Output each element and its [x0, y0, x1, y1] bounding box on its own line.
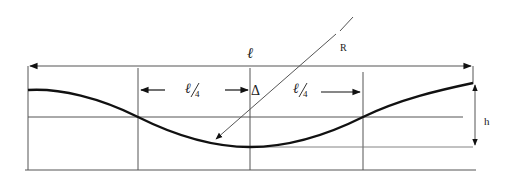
svg-text:ℓ: ℓ — [293, 80, 299, 96]
svg-text:ℓ: ℓ — [185, 80, 191, 96]
quarter-left-label: ℓ 4 — [185, 80, 200, 99]
radius-label: R — [340, 42, 347, 53]
delta-label: Δ — [251, 83, 260, 98]
svg-text:4: 4 — [303, 89, 308, 99]
quarter-right-label: ℓ 4 — [293, 80, 308, 99]
radius-line-dashed-segment — [340, 17, 353, 31]
radius-line — [216, 34, 336, 139]
svg-text:4: 4 — [195, 89, 200, 99]
span-label: ℓ — [247, 44, 253, 62]
curve-diagram: ℓ ℓ 4 Δ ℓ 4 R h — [0, 0, 511, 180]
height-label: h — [484, 115, 490, 127]
